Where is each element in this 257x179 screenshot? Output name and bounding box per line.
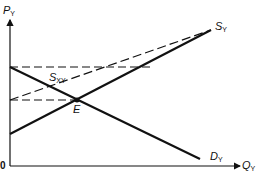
excess-supply-curve-label: SXY <box>49 72 66 84</box>
y-axis-label: PY <box>3 5 15 17</box>
x-axis-label: QY <box>242 160 255 172</box>
equilibrium-label: E <box>73 104 80 115</box>
origin-label: 0 <box>0 161 6 171</box>
equilibrium-point <box>75 98 80 103</box>
supply-curve-label: SY <box>215 21 227 33</box>
demand-curve <box>10 67 200 159</box>
excess-supply-curve <box>10 30 211 100</box>
demand-curve-label: DY <box>210 151 223 163</box>
